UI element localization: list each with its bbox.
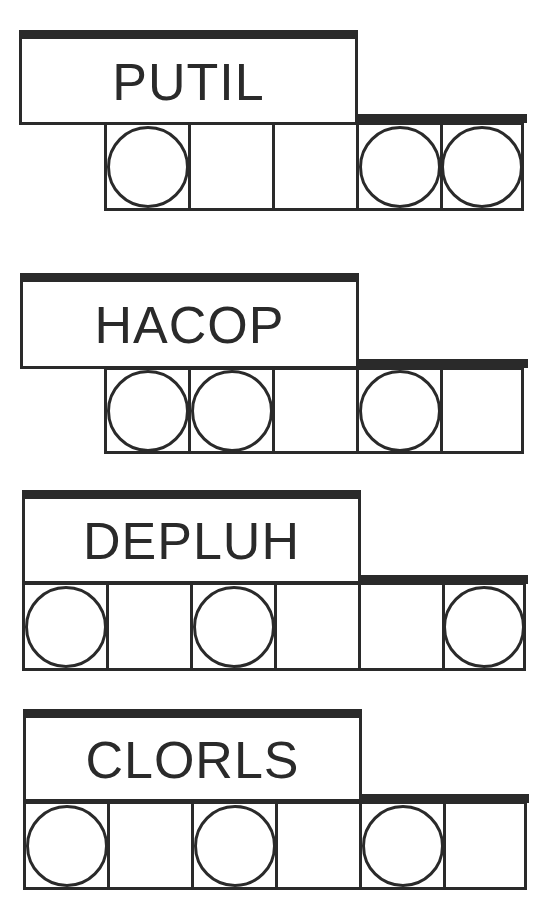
letter-input[interactable] [443, 125, 521, 208]
answer-cells [23, 801, 527, 890]
answer-cell-circled[interactable] [22, 582, 106, 671]
answer-cell-circled[interactable] [356, 122, 440, 211]
letter-input[interactable] [193, 585, 274, 668]
answer-cell-circled[interactable] [188, 367, 272, 454]
scrambled-word: CLORLS [85, 732, 299, 786]
letter-input[interactable] [275, 370, 356, 451]
letter-input[interactable] [194, 804, 275, 887]
answer-cell[interactable] [272, 367, 356, 454]
letter-input[interactable] [359, 370, 440, 451]
answer-cell-circled[interactable] [190, 582, 274, 671]
answer-cell-circled[interactable] [23, 801, 107, 890]
answer-cell[interactable] [272, 122, 356, 211]
answer-cell[interactable] [358, 582, 442, 671]
answer-cell[interactable] [274, 582, 358, 671]
scrambled-word: HACOP [95, 297, 285, 351]
answer-cells [22, 582, 526, 671]
letter-input[interactable] [110, 804, 191, 887]
scrambled-word-box: DEPLUH [22, 490, 361, 584]
answer-cell-circled[interactable] [191, 801, 275, 890]
answer-cell-circled[interactable] [356, 367, 440, 454]
answer-cell[interactable] [275, 801, 359, 890]
answer-cell-circled[interactable] [359, 801, 443, 890]
letter-input[interactable] [191, 125, 272, 208]
answer-cell-circled[interactable] [440, 122, 524, 211]
letter-input[interactable] [446, 804, 524, 887]
letter-input[interactable] [362, 804, 443, 887]
scrambled-word-box: PUTIL [19, 30, 358, 125]
answer-cell-circled[interactable] [104, 367, 188, 454]
scrambled-word-box: CLORLS [23, 709, 362, 802]
answer-cells [104, 367, 524, 454]
scrambled-word-box: HACOP [20, 273, 359, 369]
answer-cell[interactable] [107, 801, 191, 890]
answer-cell[interactable] [443, 801, 527, 890]
answer-cells [104, 122, 524, 211]
scrambled-word: DEPLUH [83, 513, 300, 567]
letter-input[interactable] [359, 125, 440, 208]
answer-cell[interactable] [188, 122, 272, 211]
letter-input[interactable] [26, 804, 107, 887]
letter-input[interactable] [443, 370, 521, 451]
answer-cell[interactable] [440, 367, 524, 454]
letter-input[interactable] [277, 585, 358, 668]
letter-input[interactable] [191, 370, 272, 451]
answer-cell-circled[interactable] [442, 582, 526, 671]
letter-input[interactable] [275, 125, 356, 208]
letter-input[interactable] [445, 585, 523, 668]
answer-cell[interactable] [106, 582, 190, 671]
letter-input[interactable] [25, 585, 106, 668]
answer-cell-circled[interactable] [104, 122, 188, 211]
letter-input[interactable] [107, 125, 188, 208]
letter-input[interactable] [107, 370, 188, 451]
letter-input[interactable] [361, 585, 442, 668]
letter-input[interactable] [109, 585, 190, 668]
letter-input[interactable] [278, 804, 359, 887]
scrambled-word: PUTIL [112, 54, 264, 108]
